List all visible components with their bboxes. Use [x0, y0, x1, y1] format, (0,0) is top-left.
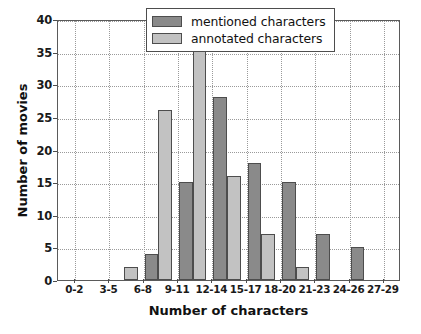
- x-tick-label: 15-17: [230, 283, 262, 295]
- y-tick-mark: [53, 281, 57, 282]
- legend-label: mentioned characters: [191, 14, 326, 29]
- bar-mentioned-24-26: [351, 247, 365, 280]
- bar-annotated-6-8: [158, 110, 172, 280]
- legend-swatch-annotated: [152, 33, 182, 44]
- x-tick-mark: [349, 279, 350, 283]
- x-tick-label: 3-5: [100, 283, 118, 295]
- x-tick-label: 24-26: [333, 283, 365, 295]
- y-axis-title: Number of movies: [15, 51, 30, 251]
- bar-series-container: [58, 21, 399, 280]
- chart-legend: mentioned charactersannotated characters: [146, 8, 335, 52]
- x-tick-mark: [108, 279, 109, 283]
- x-tick-label: 6-8: [134, 283, 152, 295]
- x-tick-mark: [211, 279, 212, 283]
- bar-mentioned-18-20: [282, 182, 296, 280]
- x-tick-label: 27-29: [367, 283, 399, 295]
- bar-annotated-3-5: [124, 267, 138, 280]
- x-axis-title: Number of characters: [57, 303, 400, 318]
- bar-mentioned-21-23: [316, 234, 330, 280]
- x-tick-label: 0-2: [65, 283, 83, 295]
- x-tick-mark: [383, 279, 384, 283]
- plot-area: [57, 20, 400, 281]
- x-tick-mark: [280, 279, 281, 283]
- legend-item: mentioned characters: [152, 13, 326, 30]
- x-tick-mark: [143, 279, 144, 283]
- bar-mentioned-6-8: [145, 254, 159, 280]
- bar-annotated-18-20: [296, 267, 310, 280]
- x-tick-label: 18-20: [264, 283, 296, 295]
- x-axis-tick-labels: 0-23-56-89-1112-1415-1718-2021-2324-2627…: [57, 283, 400, 303]
- bar-mentioned-9-11: [179, 182, 193, 280]
- bar-annotated-9-11: [193, 26, 207, 280]
- bar-mentioned-15-17: [248, 163, 262, 280]
- x-tick-label: 21-23: [298, 283, 330, 295]
- y-tick-label: 40: [2, 13, 52, 27]
- x-tick-label: 9-11: [165, 283, 190, 295]
- bar-annotated-12-14: [227, 176, 241, 280]
- x-tick-mark: [74, 279, 75, 283]
- x-tick-label: 12-14: [195, 283, 227, 295]
- legend-label: annotated characters: [191, 31, 322, 46]
- bar-annotated-15-17: [261, 234, 275, 280]
- x-tick-mark: [246, 279, 247, 283]
- legend-item: annotated characters: [152, 30, 326, 47]
- legend-swatch-mentioned: [152, 16, 182, 27]
- bar-chart-figure: 0510152025303540 Number of movies 0-23-5…: [0, 0, 421, 334]
- x-tick-mark: [177, 279, 178, 283]
- bar-mentioned-12-14: [213, 97, 227, 280]
- y-tick-label: 0: [2, 274, 52, 288]
- x-tick-mark: [314, 279, 315, 283]
